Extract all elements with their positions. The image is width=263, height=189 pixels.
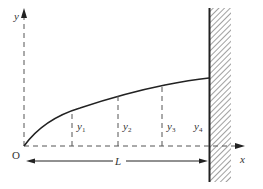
cantilever-diagram: y O x L y1 y2 y3 y4 (0, 0, 263, 189)
x-axis-arrow-icon (235, 143, 245, 149)
y-axis-label: y (13, 10, 19, 22)
fixed-wall (209, 8, 231, 182)
ordinate-label-1: y1 (76, 120, 86, 134)
deflection-curve (24, 78, 209, 146)
ordinate-label-4: y4 (193, 120, 203, 134)
x-axis-label: x (239, 153, 245, 165)
ordinate-label-3: y3 (166, 120, 176, 134)
dimension-arrow-right-icon (199, 159, 208, 164)
length-label: L (114, 155, 121, 167)
origin-label: O (12, 149, 20, 161)
y-axis-arrow-icon (21, 8, 27, 18)
ordinate-lines (72, 86, 162, 146)
y-axis (21, 8, 27, 146)
ordinate-label-2: y2 (122, 120, 132, 134)
dimension-arrow-left-icon (26, 159, 35, 164)
